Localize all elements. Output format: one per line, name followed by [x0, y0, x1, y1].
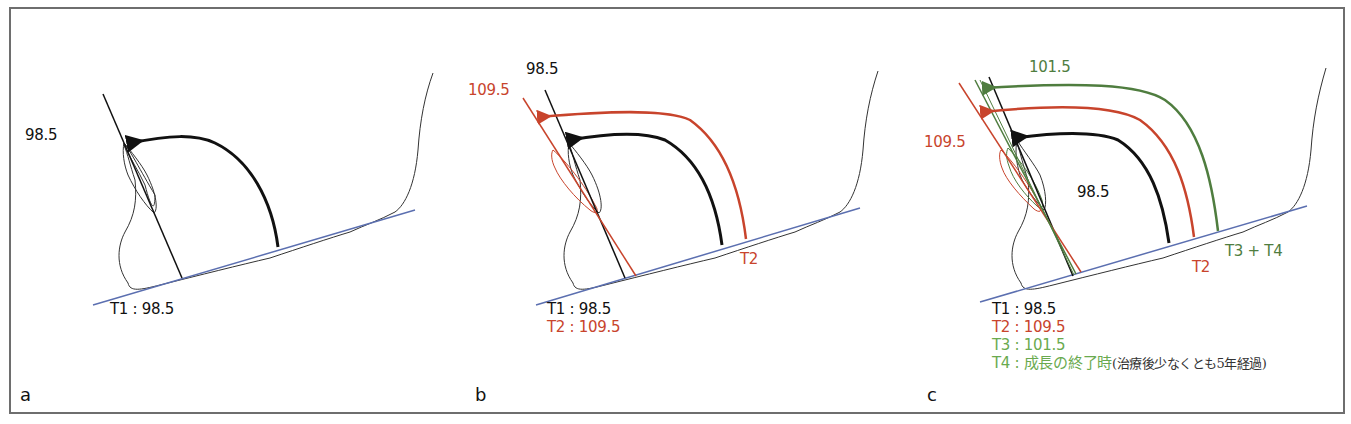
angle-label-t1: 98.5	[1077, 183, 1109, 201]
legend-item-t1: T1 : 98.5	[992, 300, 1266, 318]
legend-panel-a: T1 : 98.5	[110, 300, 174, 318]
incisor-outline-t2	[1000, 150, 1041, 211]
incisor-axis-t2	[959, 83, 1081, 272]
baseline-label-t2: T2	[1192, 258, 1210, 276]
legend-panel-b: T1 : 98.5 T2 : 109.5	[547, 300, 620, 336]
incisor-axis-t2	[523, 98, 636, 276]
legend-item-t3: T3 : 101.5	[992, 336, 1266, 354]
panel-label-c: c	[927, 384, 937, 405]
incisor-axis-t1	[103, 94, 182, 278]
jaw-outline	[564, 71, 878, 289]
angle-arc-t3	[985, 85, 1218, 231]
legend-item-t4: T4 : 成長の終了時(治療後少なくとも5年経過)	[992, 354, 1266, 373]
baseline-label-t2: T2	[740, 250, 758, 268]
legend-item-t1: T1 : 98.5	[110, 300, 174, 318]
baseline-mandibular-plane	[536, 208, 860, 305]
angle-arc-t2	[540, 112, 746, 239]
panel-b-drawing	[523, 71, 878, 305]
panel-c-drawing	[959, 68, 1326, 302]
legend-item-t4-note: (治療後少なくとも5年経過)	[1112, 356, 1266, 371]
legend-item-t2: T2 : 109.5	[992, 318, 1266, 336]
angle-label-t2: 109.5	[924, 133, 965, 151]
angle-arc-t1	[570, 134, 722, 245]
angle-arc-t1	[130, 137, 278, 247]
legend-item-t2: T2 : 109.5	[547, 318, 620, 336]
panel-a-drawing	[93, 73, 433, 305]
angle-label-t2: 109.5	[468, 81, 509, 99]
legend-panel-c: T1 : 98.5 T2 : 109.5 T3 : 101.5 T4 : 成長の…	[992, 300, 1266, 373]
angle-label-t3: 101.5	[1029, 58, 1070, 76]
panel-label-a: a	[20, 384, 31, 405]
angle-arc-t2	[983, 107, 1194, 237]
angle-label-t1: 98.5	[25, 126, 57, 144]
baseline-label-t3-t4: T3 + T4	[1225, 242, 1282, 260]
legend-item-t1: T1 : 98.5	[547, 300, 620, 318]
jaw-outline	[119, 73, 433, 289]
angle-label-t1: 98.5	[526, 60, 558, 78]
panel-label-b: b	[475, 384, 486, 405]
legend-item-t4-label: T4 : 成長の終了時	[992, 354, 1112, 372]
incisor-axis-t1	[545, 90, 625, 278]
baseline-mandibular-plane	[93, 210, 415, 305]
